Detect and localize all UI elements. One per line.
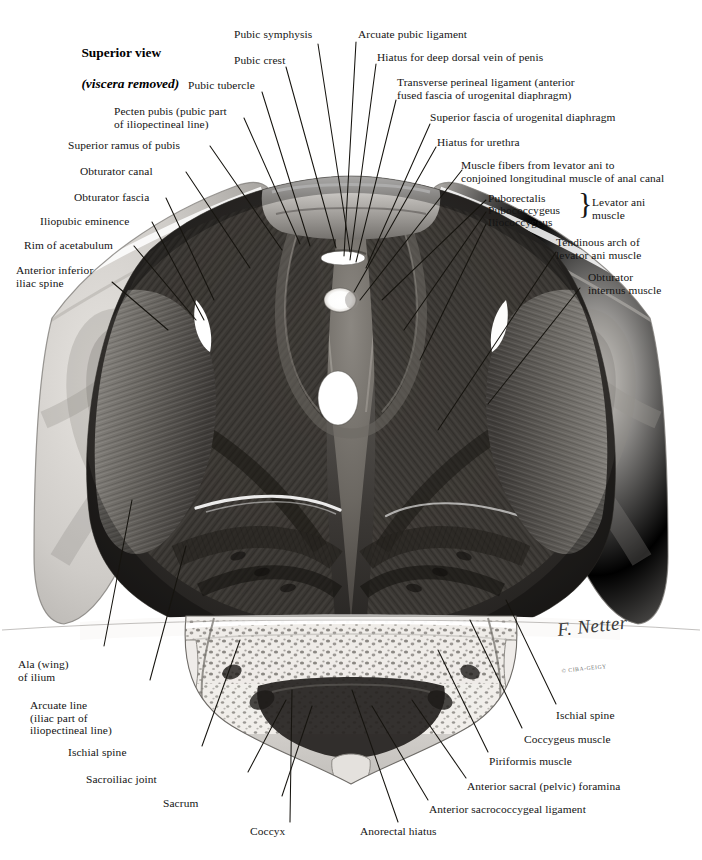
label-superior-ramus-of-pubis: Superior ramus of pubis xyxy=(68,139,180,152)
levator-ani-line1: Levator ani xyxy=(592,196,645,208)
label-superior-fascia-ug-diaphragm: Superior fascia of urogenital diaphragm xyxy=(430,111,615,124)
label-hiatus-deep-dorsal-vein: Hiatus for deep dorsal vein of penis xyxy=(377,51,543,64)
label-levator-ani-muscle: Levator animuscle xyxy=(592,196,645,221)
label-hiatus-for-urethra: Hiatus for urethra xyxy=(437,136,520,149)
signature-credit: © CIBA-GEIGY xyxy=(561,663,607,674)
signature-name: F. Netter xyxy=(556,612,628,640)
label-anterior-sacrococcygeal-ligament: Anterior sacrococcygeal ligament xyxy=(429,803,586,816)
page-title-line1: Superior view xyxy=(81,45,161,60)
label-iliococcygeus: Iliococcygeus xyxy=(488,216,553,229)
label-iliopubic-eminence: Iliopubic eminence xyxy=(40,215,129,228)
label-pubococcygeus: Pubococcygeus xyxy=(488,204,560,217)
levator-ani-brace: } xyxy=(578,188,592,218)
label-tendinous-arch: Tendinous arch of levator ani muscle xyxy=(556,236,641,261)
label-ischial-spine-right: Ischial spine xyxy=(556,709,615,722)
label-anterior-sacral-foramina: Anterior sacral (pelvic) foramina xyxy=(467,780,621,793)
anatomical-plate: Superior view (viscera removed) Pubic sy… xyxy=(0,0,702,860)
label-puborectalis: Puborectalis xyxy=(488,192,546,205)
label-sacrum: Sacrum xyxy=(163,797,198,810)
label-ischial-spine-left: Ischial spine xyxy=(68,746,127,759)
artist-signature: F. Netter © CIBA-GEIGY xyxy=(538,594,634,697)
label-pecten-pubis: Pecten pubis (pubic part of iliopectinea… xyxy=(114,105,227,130)
label-anorectal-hiatus: Anorectal hiatus xyxy=(360,825,437,838)
label-pubic-symphysis: Pubic symphysis xyxy=(234,28,312,41)
label-pubic-tubercle: Pubic tubercle xyxy=(188,79,255,92)
label-coccyx: Coccyx xyxy=(250,825,285,838)
page-title: Superior view (viscera removed) xyxy=(68,30,179,107)
label-anterior-inferior-iliac-spine: Anterior inferior iliac spine xyxy=(16,264,93,289)
levator-ani-line2: muscle xyxy=(592,209,625,221)
label-ala-of-ilium: Ala (wing) of ilium xyxy=(18,658,69,683)
label-arcuate-line: Arcuate line (iliac part of iliopectinea… xyxy=(30,699,112,737)
label-obturator-canal: Obturator canal xyxy=(80,165,153,178)
label-sacroiliac-joint: Sacroiliac joint xyxy=(86,773,157,786)
label-piriformis-muscle: Piriformis muscle xyxy=(489,755,572,768)
label-coccygeus-muscle: Coccygeus muscle xyxy=(524,733,611,746)
label-rim-of-acetabulum: Rim of acetabulum xyxy=(24,239,113,252)
label-arcuate-pubic-ligament: Arcuate pubic ligament xyxy=(358,28,467,41)
label-muscle-fibers-levator-ani: Muscle fibers from levator ani to conjoi… xyxy=(461,159,664,184)
page-title-line2: (viscera removed) xyxy=(81,76,179,91)
label-obturator-internus-muscle: Obturator internus muscle xyxy=(588,271,661,296)
label-obturator-fascia: Obturator fascia xyxy=(74,191,149,204)
label-pubic-crest: Pubic crest xyxy=(234,54,285,67)
label-transverse-perineal-ligament: Transverse perineal ligament (anterior f… xyxy=(397,76,575,101)
